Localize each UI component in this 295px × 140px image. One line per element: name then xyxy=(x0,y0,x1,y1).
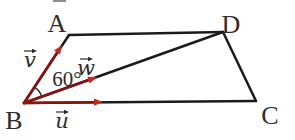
vertex-label-D: D xyxy=(222,10,241,39)
vertex-label-C: C xyxy=(261,101,278,130)
angle-arc xyxy=(34,87,41,96)
vertex-label-A: A xyxy=(48,9,67,38)
top-edge-artifact xyxy=(53,0,66,2)
geometry-figure: 60°vwuABCD xyxy=(0,0,295,140)
vertex-label-B: B xyxy=(5,106,22,135)
edge-AD xyxy=(69,32,223,35)
vector-u-arrowhead-icon xyxy=(94,99,103,106)
vector-v-arrowhead-icon xyxy=(54,45,62,55)
vector-u-shaft xyxy=(24,102,97,103)
figure-svg: 60°vwuABCD xyxy=(0,0,295,140)
edge-DC xyxy=(223,32,256,101)
